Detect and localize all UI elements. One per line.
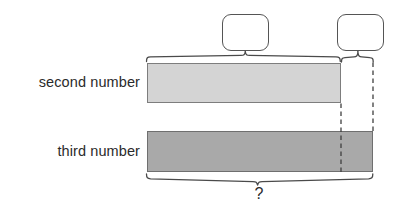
second-number-bar (147, 63, 341, 103)
top-right-brace (342, 53, 374, 62)
bar-model-diagram: second number third number ? (0, 0, 399, 210)
third-number-label: third number (18, 144, 140, 159)
unknown-total-label: ? (248, 186, 270, 202)
third-number-bar (147, 131, 373, 172)
left-callout-box[interactable] (222, 14, 269, 51)
top-left-brace (147, 52, 341, 62)
bottom-brace (147, 174, 373, 185)
right-callout-box[interactable] (337, 14, 384, 51)
second-number-label: second number (18, 75, 140, 90)
